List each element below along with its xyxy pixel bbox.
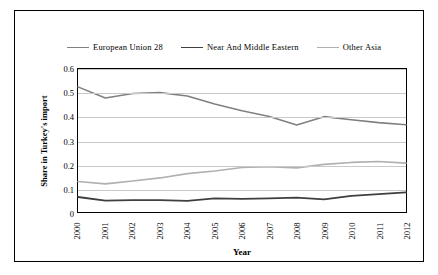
x-axis-tick-label: 2000	[72, 223, 82, 240]
x-axis-tick-label: 2012	[402, 223, 412, 240]
chart-figure: European Union 28 Near And Middle Easter…	[0, 0, 438, 275]
legend-swatch-nme	[181, 47, 203, 48]
gridline	[78, 93, 406, 94]
legend-label-other-asia: Other Asia	[343, 42, 382, 52]
y-axis-tick-label: 0.3	[63, 137, 74, 147]
y-axis-tick-label: 0.5	[63, 88, 74, 98]
figure-border: European Union 28 Near And Middle Easter…	[14, 10, 424, 262]
x-axis-tick-label: 2005	[210, 223, 220, 240]
x-axis-title: Year	[77, 247, 407, 257]
legend-item-eu: European Union 28	[67, 42, 163, 52]
x-axis-tick-label: 2007	[265, 223, 275, 240]
x-axis-tick-label: 2002	[127, 223, 137, 240]
x-axis-tick-label: 2011	[375, 223, 385, 240]
x-axis-tick-label: 2004	[182, 223, 192, 240]
x-axis-tick-label: 2010	[347, 223, 357, 240]
gridline	[78, 69, 406, 70]
legend-item-other-asia: Other Asia	[317, 42, 382, 52]
x-axis-tick-labels: 2000200120022003200420052006200720082009…	[77, 216, 407, 242]
y-axis-tick-label: 0	[70, 209, 74, 219]
x-axis-tick-label: 2006	[237, 223, 247, 240]
x-axis-tick-label: 2003	[155, 223, 165, 240]
legend-swatch-eu	[67, 47, 89, 48]
x-axis-tick-label: 2008	[292, 223, 302, 240]
plot-area: 00.10.20.30.40.50.6	[77, 68, 407, 213]
y-axis-tick-label: 0.1	[63, 185, 74, 195]
legend-label-eu: European Union 28	[93, 42, 163, 52]
gridline	[78, 142, 406, 143]
x-axis-tick-label: 2001	[100, 223, 110, 240]
y-axis-tick-label: 0.6	[63, 64, 74, 74]
plot-inner: 00.10.20.30.40.50.6	[78, 69, 406, 212]
y-axis-title: Share in Turkey's import	[37, 68, 51, 213]
y-axis-tick-label: 0.4	[63, 112, 74, 122]
gridline	[78, 190, 406, 191]
x-axis-tick-label: 2009	[320, 223, 330, 240]
gridline	[78, 117, 406, 118]
series-line-2	[78, 192, 406, 200]
chart-legend: European Union 28 Near And Middle Easter…	[67, 39, 387, 55]
legend-label-nme: Near And Middle Eastern	[207, 42, 299, 52]
legend-item-nme: Near And Middle Eastern	[181, 42, 299, 52]
y-axis-tick-label: 0.2	[63, 161, 74, 171]
legend-swatch-other-asia	[317, 47, 339, 48]
gridline	[78, 166, 406, 167]
